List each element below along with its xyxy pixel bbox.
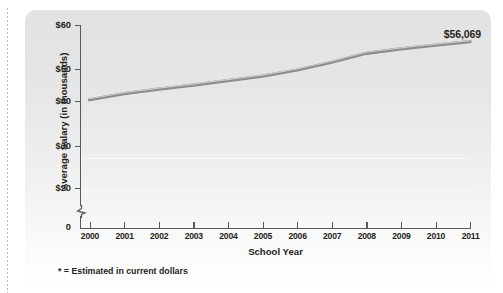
page-edge-rule <box>7 8 8 293</box>
chart-panel: $60 $50 $40 $30 $20 0 2000 2001 2002 200… <box>25 10 491 293</box>
plot-area: $60 $50 $40 $30 $20 0 2000 2001 2002 200… <box>25 10 491 293</box>
x-axis-title: School Year <box>80 246 471 257</box>
footnote-text: * = Estimated in current dollars <box>58 266 188 276</box>
end-value-label: $56,069 <box>444 28 481 40</box>
y-axis-title: Average Salary (in thousands) <box>58 22 69 222</box>
